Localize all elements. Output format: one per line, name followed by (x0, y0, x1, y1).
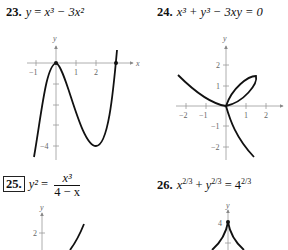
svg-text:−1: −1 (199, 111, 208, 120)
svg-text:−4: −4 (40, 142, 49, 151)
svg-text:y: y (52, 34, 57, 43)
svg-text:1: 1 (216, 82, 220, 91)
svg-text:1: 1 (74, 68, 78, 77)
svg-text:−1: −1 (211, 122, 220, 131)
plot-26: y 4 (212, 201, 244, 250)
svg-text:2: 2 (94, 68, 98, 77)
svg-text:2: 2 (33, 229, 37, 238)
svg-text:−1: −1 (29, 68, 38, 77)
svg-text:y: y (39, 203, 44, 212)
svg-text:1: 1 (244, 111, 248, 120)
svg-text:x: x (135, 59, 140, 68)
svg-text:y: y (225, 201, 230, 210)
plot-23: x y −1 1 2 −4 (27, 34, 140, 160)
figure-canvas: x y −1 1 2 −4 y −2 −1 1 2 (0, 0, 288, 250)
svg-text:2: 2 (264, 111, 268, 120)
svg-text:2: 2 (216, 61, 220, 70)
plot-24: y −2 −1 1 2 2 1 −1 −2 (176, 34, 283, 160)
svg-text:4: 4 (218, 219, 222, 228)
svg-text:−2: −2 (179, 111, 188, 120)
svg-text:−2: −2 (211, 143, 220, 152)
plot-25: y 2 (33, 203, 84, 250)
svg-text:y: y (222, 34, 227, 43)
